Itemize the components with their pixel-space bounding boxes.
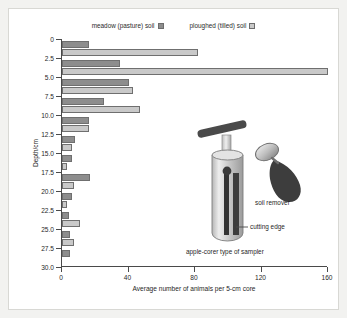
x-tick-label: 160 — [321, 274, 332, 281]
bar-ploughed — [62, 125, 89, 133]
bar-ploughed — [62, 182, 74, 190]
bar-meadow — [62, 136, 75, 144]
y-tick-label: 17.5 — [41, 169, 54, 176]
legend-swatch-ploughed-icon — [249, 23, 255, 29]
y-tick-label: 5.0 — [45, 74, 54, 81]
y-tick-mark — [56, 77, 61, 78]
bar-ploughed — [62, 68, 328, 76]
depth-band — [62, 39, 327, 58]
y-axis-title: Depth/cm — [32, 139, 39, 167]
bar-meadow — [62, 155, 72, 163]
bar-meadow — [62, 41, 89, 49]
sampler-illustration: cutting edge apple-corer type of sampler… — [184, 115, 340, 275]
bar-ploughed — [62, 87, 133, 95]
bar-ploughed — [62, 239, 74, 247]
bar-ploughed — [62, 106, 140, 114]
depth-band — [62, 96, 327, 115]
depth-band — [62, 58, 327, 77]
y-tick-label: 22.5 — [41, 207, 54, 214]
bar-meadow — [62, 60, 120, 68]
figure-panel: meadow (pasture) soil ploughed (tilled) … — [8, 8, 339, 310]
y-tick-mark — [56, 134, 61, 135]
y-tick-mark — [56, 58, 61, 59]
bar-meadow — [62, 79, 129, 87]
soil-remover-label: soil remover — [255, 199, 290, 206]
y-tick-mark — [56, 229, 61, 230]
bar-meadow — [62, 174, 90, 182]
legend-swatch-meadow-icon — [158, 23, 164, 29]
bar-meadow — [62, 212, 69, 220]
y-tick-label: 7.5 — [45, 93, 54, 100]
bar-ploughed — [62, 163, 67, 171]
bar-meadow — [62, 117, 89, 125]
bar-meadow — [62, 98, 104, 106]
y-tick-label: 30.0 — [41, 264, 54, 271]
x-tick-label: 120 — [255, 274, 266, 281]
x-axis-title: Average number of animals per 5-cm core — [132, 285, 255, 292]
y-tick-label: 10.0 — [41, 112, 54, 119]
bar-ploughed — [62, 49, 198, 57]
chart-legend: meadow (pasture) soil ploughed (tilled) … — [9, 22, 338, 29]
y-tick-label: 15.0 — [41, 150, 54, 157]
legend-label-ploughed: ploughed (tilled) soil — [190, 22, 247, 29]
y-tick-mark — [56, 96, 61, 97]
y-tick-mark — [56, 172, 61, 173]
legend-label-meadow: meadow (pasture) soil — [92, 22, 155, 29]
bar-ploughed — [62, 144, 72, 152]
x-tick-label: 0 — [59, 274, 63, 281]
y-tick-label: 12.5 — [41, 131, 54, 138]
legend-item-meadow: meadow (pasture) soil — [92, 22, 164, 29]
y-tick-label: 20.0 — [41, 188, 54, 195]
y-tick-mark — [56, 191, 61, 192]
bar-meadow — [62, 231, 70, 239]
x-tick-label: 40 — [124, 274, 131, 281]
cutting-edge-label: cutting edge — [250, 223, 285, 230]
x-tick-mark — [61, 267, 62, 272]
y-tick-mark — [56, 248, 61, 249]
bar-ploughed — [62, 220, 80, 228]
bar-meadow — [62, 193, 72, 201]
y-tick-label: 25.0 — [41, 226, 54, 233]
legend-item-ploughed: ploughed (tilled) soil — [190, 22, 256, 29]
depth-band — [62, 77, 327, 96]
y-tick-mark — [56, 153, 61, 154]
x-tick-label: 80 — [190, 274, 197, 281]
y-tick-mark — [56, 115, 61, 116]
bar-ploughed — [62, 201, 67, 209]
y-tick-label: 27.5 — [41, 245, 54, 252]
y-tick-label: 0 — [50, 36, 54, 43]
sampler-caption: apple-corer type of sampler — [186, 248, 264, 255]
y-tick-mark — [56, 210, 61, 211]
x-tick-mark — [128, 267, 129, 272]
bar-meadow — [62, 250, 70, 258]
y-tick-mark — [56, 39, 61, 40]
y-tick-label: 2.5 — [45, 55, 54, 62]
soil-remover-icon — [253, 140, 301, 202]
